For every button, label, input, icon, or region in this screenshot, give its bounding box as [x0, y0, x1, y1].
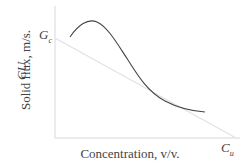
x-axis-label: Concentration, v/v.	[60, 146, 200, 162]
y-axis-label-cu: CU	[14, 36, 30, 106]
gc-main: G	[39, 27, 48, 42]
gc-sub: c	[48, 36, 52, 45]
cu-main: C	[221, 140, 230, 155]
cu-label: Cu	[221, 140, 234, 158]
gc-label: Gc	[39, 27, 52, 45]
chart-plot	[0, 0, 251, 167]
cu-sub: u	[230, 149, 234, 158]
operating-line	[55, 38, 236, 138]
flux-curve	[70, 21, 205, 112]
